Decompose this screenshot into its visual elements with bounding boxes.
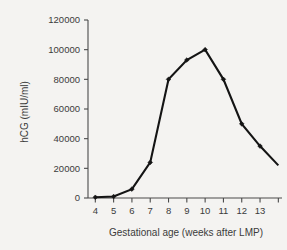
y-tick-label: 100000 <box>48 44 80 55</box>
x-axis-title: Gestational age (weeks after LMP) <box>109 227 263 238</box>
x-tick-label: 6 <box>129 205 134 216</box>
x-tick-label: 10 <box>200 205 211 216</box>
x-tick-label: 7 <box>148 205 153 216</box>
x-tick-label: 9 <box>184 205 189 216</box>
x-tick-label: 12 <box>236 205 247 216</box>
x-tick-label: 5 <box>111 205 116 216</box>
y-tick-label: 20000 <box>54 163 80 174</box>
y-tick-label: 60000 <box>54 103 80 114</box>
x-tick-label: 4 <box>93 205 98 216</box>
hcg-gestational-age-chart: 020000400006000080000100000120000 456789… <box>0 0 287 250</box>
x-tick-label: 8 <box>166 205 171 216</box>
y-tick-label: 40000 <box>54 133 80 144</box>
y-tick-label: 80000 <box>54 74 80 85</box>
x-tick-label: 11 <box>218 205 228 216</box>
y-tick-label: 120000 <box>48 14 80 25</box>
y-axis-title: hCG (mIU/ml) <box>19 81 30 143</box>
y-tick-label: 0 <box>75 192 80 203</box>
x-tick-label: 13 <box>255 205 266 216</box>
chart-svg: 020000400006000080000100000120000 456789… <box>0 0 287 250</box>
